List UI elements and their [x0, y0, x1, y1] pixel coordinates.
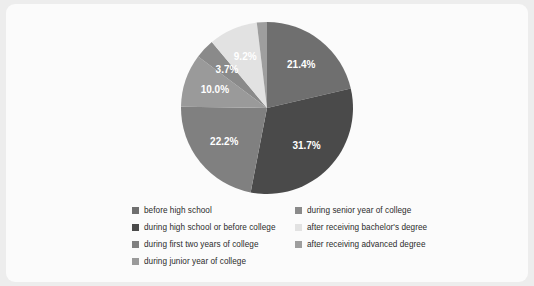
pie-slice-label: 10.0%: [201, 84, 229, 95]
legend-item[interactable]: after receiving advanced degree: [295, 236, 462, 252]
legend-swatch-icon: [132, 224, 139, 231]
legend-item-label: after receiving bachelor's degree: [307, 223, 427, 232]
legend-item-label: during senior year of college: [307, 206, 411, 215]
pie-slice-label: 22.2%: [210, 136, 238, 147]
legend-swatch-icon: [295, 224, 302, 231]
legend-item-label: after receiving advanced degree: [307, 240, 426, 249]
legend-item-label: before high school: [144, 206, 212, 215]
legend-item[interactable]: before high school: [132, 202, 295, 218]
pie-slice-label: 3.7%: [216, 64, 239, 75]
pie-slice-label: 21.4%: [287, 59, 315, 70]
legend-column-left: before high school during high school or…: [132, 202, 295, 274]
pie-slice-label: 31.7%: [292, 140, 320, 151]
legend-swatch-icon: [132, 207, 139, 214]
legend-item[interactable]: during first two years of college: [132, 236, 295, 252]
legend-item[interactable]: during senior year of college: [295, 202, 462, 218]
legend-item[interactable]: during high school or before college: [132, 219, 295, 235]
legend-item-label: during high school or before college: [144, 223, 276, 232]
legend-swatch-icon: [295, 207, 302, 214]
chart-card: 21.4%31.7%22.2%10.0%3.7%9.2%1.9% before …: [6, 4, 528, 282]
pie-chart: 21.4%31.7%22.2%10.0%3.7%9.2%1.9%: [170, 14, 366, 200]
legend-item[interactable]: during junior year of college: [132, 253, 295, 269]
legend-item-label: during junior year of college: [144, 257, 246, 266]
pie-chart-area: 21.4%31.7%22.2%10.0%3.7%9.2%1.9%: [6, 4, 528, 200]
legend-column-right: during senior year of college after rece…: [295, 202, 462, 274]
legend-item[interactable]: after receiving bachelor's degree: [295, 219, 462, 235]
legend-swatch-icon: [132, 241, 139, 248]
legend-item-label: during first two years of college: [144, 240, 259, 249]
pie-slice-label: 9.2%: [234, 51, 257, 62]
legend-swatch-icon: [132, 258, 139, 265]
chart-legend: before high school during high school or…: [132, 202, 462, 274]
legend-swatch-icon: [295, 241, 302, 248]
